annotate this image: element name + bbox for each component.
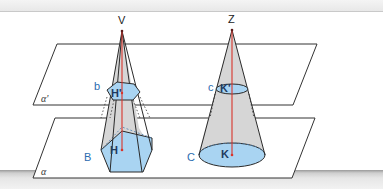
label-C: C	[187, 151, 195, 163]
label-alpha-prime: α'	[41, 93, 49, 104]
label-K-prime: K'	[220, 82, 231, 94]
upper-plane	[33, 44, 317, 105]
label-B: B	[84, 151, 91, 163]
label-c: c	[208, 81, 214, 93]
geometry-diagram: V Z b H' B H c K' C K α' α	[0, 0, 383, 189]
label-Z: Z	[228, 13, 235, 25]
label-V: V	[118, 14, 126, 26]
point-Z	[231, 29, 234, 32]
label-H: H	[110, 144, 118, 156]
point-V	[121, 30, 124, 33]
point-H	[121, 149, 124, 152]
lower-plane	[33, 118, 315, 178]
label-K: K	[221, 148, 229, 160]
label-H-prime: H'	[111, 87, 122, 99]
point-K	[231, 154, 234, 157]
label-b: b	[94, 80, 100, 92]
label-alpha: α	[41, 166, 47, 177]
